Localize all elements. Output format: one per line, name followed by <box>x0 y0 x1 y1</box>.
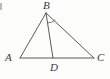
geometry-figure: A B C D <box>0 0 110 79</box>
vertex-label-b: B <box>43 0 50 11</box>
segment-BD <box>46 13 53 58</box>
vertex-label-c: C <box>97 52 104 63</box>
segment-BC <box>46 13 94 58</box>
segment-AB <box>20 13 46 58</box>
vertex-label-a: A <box>5 52 12 63</box>
vertex-label-d: D <box>50 62 58 73</box>
